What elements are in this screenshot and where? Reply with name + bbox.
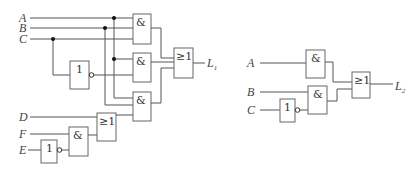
- wire-and-right-2-out: [327, 89, 352, 101]
- junction-c: [51, 37, 55, 41]
- wire-and3-out: [151, 68, 174, 103]
- input-label-a-right: A: [246, 56, 255, 70]
- or-gate-2-symbol: ≥1: [99, 115, 115, 128]
- wire-a-branch: [114, 18, 133, 98]
- not-gate-e-symbol: 1: [46, 142, 53, 155]
- right-circuit: A B C 1 & & ≥1 L2: [246, 50, 406, 122]
- left-circuit: A B C 1 & & &: [18, 11, 217, 163]
- and-gate-4-symbol: &: [73, 129, 83, 142]
- or-gate-l2-symbol: ≥1: [354, 74, 370, 87]
- wire-and-right-1-out: [325, 62, 352, 82]
- and-gate-right-2-symbol: &: [313, 88, 323, 101]
- inversion-bubble-icon: [89, 73, 94, 78]
- input-label-c-right: C: [247, 103, 256, 117]
- and-gate-1-symbol: &: [136, 16, 146, 29]
- inversion-bubble-icon: [57, 148, 62, 153]
- input-label-f: F: [18, 127, 27, 141]
- output-label-l1: L1: [206, 56, 217, 72]
- input-label-c: C: [19, 32, 28, 46]
- and-gate-2-symbol: &: [136, 55, 146, 68]
- not-gate-c-symbol: 1: [76, 63, 83, 76]
- input-label-d: D: [18, 110, 28, 124]
- junction-b: [103, 26, 107, 30]
- junction-a: [112, 16, 116, 20]
- input-label-e: E: [18, 143, 27, 157]
- logic-circuit-diagram: A B C 1 & & &: [0, 0, 416, 175]
- inversion-bubble-icon: [295, 108, 300, 113]
- wire-and1-out: [151, 28, 174, 58]
- wire-c-to-not: [53, 39, 70, 75]
- or-gate-l1-symbol: ≥1: [176, 50, 192, 63]
- output-label-l2: L2: [394, 79, 406, 95]
- wire-b-branch: [105, 28, 133, 105]
- and-gate-3-symbol: &: [136, 94, 146, 107]
- and-gate-right-1-symbol: &: [311, 52, 321, 65]
- junction-a2: [112, 57, 116, 61]
- not-gate-right-symbol: 1: [284, 101, 291, 114]
- input-label-b-right: B: [247, 85, 255, 99]
